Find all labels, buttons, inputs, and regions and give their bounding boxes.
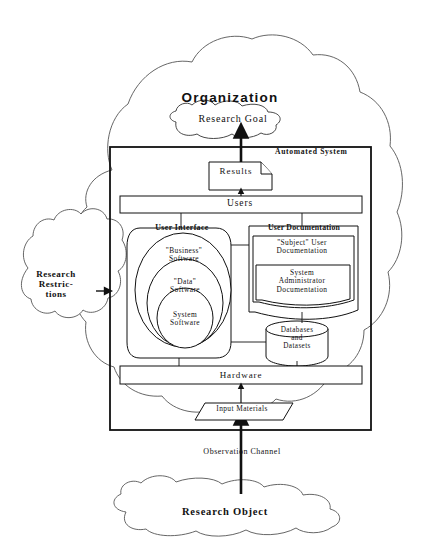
business-software-line2: Software bbox=[148, 255, 220, 263]
databases-line3: Datasets bbox=[260, 342, 334, 350]
input-materials-label: Input Materials bbox=[203, 405, 281, 413]
results-label: Results bbox=[206, 166, 266, 176]
research-restrictions-label: Research Restric- tions bbox=[20, 269, 92, 299]
system-software-label: System Software bbox=[152, 311, 218, 328]
hardware-label: Hardware bbox=[195, 370, 287, 380]
data-software-line2: Software bbox=[152, 286, 218, 294]
research-object-label: Research Object bbox=[160, 506, 290, 518]
restrictions-line3: tions bbox=[20, 289, 92, 299]
users-label: Users bbox=[190, 198, 290, 209]
observation-channel-label: Observation Channel bbox=[178, 448, 306, 457]
restrictions-line1: Research bbox=[20, 269, 92, 279]
user-documentation-label: User Documentation bbox=[252, 224, 356, 233]
databases-line1: Databases bbox=[260, 326, 334, 334]
data-software-label: "Data" Software bbox=[152, 278, 218, 295]
admin-doc-line3: Documentation bbox=[254, 286, 350, 294]
user-interface-label: User Interface bbox=[140, 224, 224, 233]
restrictions-line2: Restric- bbox=[20, 279, 92, 289]
subject-user-documentation-label: "Subject" User Documentation bbox=[254, 239, 350, 256]
diagram-canvas: Organization Research Goal Automated Sys… bbox=[0, 0, 442, 548]
databases-and-datasets-label: Databases and Datasets bbox=[260, 326, 334, 350]
databases-line2: and bbox=[260, 334, 334, 342]
business-software-label: "Business" Software bbox=[148, 247, 220, 264]
system-administrator-documentation-label: System Administrator Documentation bbox=[254, 269, 350, 294]
system-software-line2: Software bbox=[152, 319, 218, 327]
research-goal-label: Research Goal bbox=[178, 113, 288, 124]
organization-label: Organization bbox=[160, 90, 300, 105]
automated-system-label: Automated System bbox=[275, 148, 375, 157]
subject-doc-line2: Documentation bbox=[254, 247, 350, 255]
